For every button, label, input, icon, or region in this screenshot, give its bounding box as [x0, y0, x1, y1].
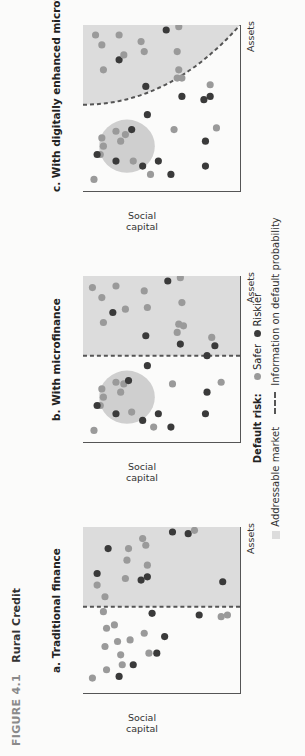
- riskier-borrower-dot: [153, 650, 160, 657]
- riskier-borrower-dot: [142, 332, 149, 339]
- safer-borrower-dot: [145, 650, 152, 657]
- safer-borrower-dot: [130, 158, 137, 165]
- safer-borrower-dot: [100, 143, 107, 150]
- dashed-line-icon: [274, 392, 276, 414]
- y-axis-label: Social capital: [119, 712, 165, 734]
- safer-borrower-dot: [94, 582, 101, 589]
- riskier-borrower-dot: [207, 93, 214, 100]
- safer-borrower-dot: [101, 593, 108, 600]
- safer-borrower-dot: [144, 304, 151, 311]
- riskier-borrower-dot: [94, 402, 101, 409]
- riskier-borrower-dot: [178, 93, 185, 100]
- riskier-borrower-dot: [219, 578, 226, 585]
- riskier-borrower-dot: [105, 545, 112, 552]
- riskier-borrower-dot: [185, 530, 192, 537]
- riskier-borrower-dot: [202, 138, 209, 145]
- figure-number: FIGURE 4.1: [10, 674, 23, 746]
- y-axis-label: Social capital: [119, 461, 165, 483]
- riskier-borrower-dot: [203, 389, 210, 396]
- riskier-borrower-dot: [138, 577, 145, 584]
- legend-safer-label: Safer: [252, 344, 263, 370]
- safer-borrower-dot: [117, 138, 124, 145]
- safer-borrower-dot: [122, 306, 129, 313]
- safer-borrower-dot: [218, 613, 225, 620]
- panel-with-microfinance: b. With microfinance Social capital Asse…: [83, 276, 241, 443]
- riskier-borrower-dot: [155, 158, 162, 165]
- figure-title: FIGURE 4.1 Rural Credit: [10, 588, 23, 746]
- legend-info-label: Information on default probability: [270, 217, 281, 385]
- safer-dot-icon: [254, 373, 261, 380]
- safer-borrower-dot: [150, 423, 157, 430]
- addressable-market-swatch-icon: [272, 531, 280, 539]
- riskier-dot-icon: [254, 330, 261, 337]
- safer-borrower-dot: [112, 128, 119, 135]
- safer-borrower-dot: [208, 334, 215, 341]
- riskier-borrower-dot: [94, 151, 101, 158]
- safer-borrower-dot: [98, 134, 105, 141]
- safer-borrower-dot: [90, 427, 97, 434]
- scatter-plot: [83, 276, 240, 442]
- safer-borrower-dot: [174, 48, 181, 55]
- safer-borrower-dot: [89, 284, 96, 291]
- riskier-borrower-dot: [142, 83, 149, 90]
- figure-name: Rural Credit: [10, 588, 23, 663]
- riskier-borrower-dot: [139, 163, 146, 170]
- riskier-borrower-dot: [112, 410, 119, 417]
- safer-borrower-dot: [138, 38, 145, 45]
- safer-borrower-dot: [114, 638, 121, 645]
- panel-title: b. With microfinance: [50, 276, 62, 443]
- safer-borrower-dot: [100, 66, 107, 73]
- safer-borrower-dot: [92, 31, 99, 38]
- riskier-borrower-dot: [211, 342, 218, 349]
- safer-borrower-dot: [98, 41, 105, 48]
- safer-borrower-dot: [112, 379, 119, 386]
- safer-borrower-dot: [139, 535, 146, 542]
- safer-borrower-dot: [117, 651, 124, 658]
- safer-borrower-dot: [100, 608, 107, 615]
- safer-borrower-dot: [90, 176, 97, 183]
- riskier-borrower-dot: [139, 417, 146, 424]
- riskier-borrower-dot: [144, 111, 151, 118]
- borrower-group-cluster: [99, 120, 155, 173]
- plot-area: [83, 276, 241, 443]
- riskier-borrower-dot: [130, 661, 137, 668]
- plot-area: [83, 25, 241, 192]
- riskier-borrower-dot: [196, 611, 203, 618]
- legend-riskier-label: Riskier: [252, 293, 263, 327]
- figure: FIGURE 4.1 Rural Credit a. Traditional f…: [0, 0, 305, 756]
- riskier-borrower-dot: [155, 410, 162, 417]
- riskier-borrower-dot: [200, 96, 207, 103]
- safer-borrower-dot: [101, 643, 108, 650]
- riskier-borrower-dot: [202, 410, 209, 417]
- safer-borrower-dot: [117, 389, 124, 396]
- safer-borrower-dot: [128, 409, 135, 416]
- y-axis-label: Social capital: [119, 210, 165, 232]
- legend-addressable-label: Addressable market: [270, 427, 281, 527]
- safer-borrower-dot: [218, 379, 225, 386]
- safer-borrower-dot: [103, 625, 110, 632]
- safer-borrower-dot: [89, 674, 96, 681]
- riskier-borrower-dot: [94, 570, 101, 577]
- safer-borrower-dot: [122, 575, 129, 582]
- safer-borrower-dot: [224, 611, 231, 618]
- riskier-borrower-dot: [163, 26, 170, 33]
- riskier-borrower-dot: [116, 673, 123, 680]
- safer-borrower-dot: [98, 385, 105, 392]
- safer-borrower-dot: [207, 81, 214, 88]
- safer-borrower-dot: [127, 636, 134, 643]
- panel-title: a. Traditional finance: [50, 527, 62, 694]
- scatter-plot: [83, 527, 240, 693]
- legend-default-risk-label: Default risk:: [252, 393, 263, 463]
- safer-borrower-dot: [170, 126, 177, 133]
- safer-borrower-dot: [116, 31, 123, 38]
- safer-borrower-dot: [122, 131, 129, 138]
- panel-traditional-finance: a. Traditional finance Social capital As…: [83, 527, 241, 694]
- safer-borrower-dot: [112, 282, 119, 289]
- safer-borrower-dot: [103, 666, 110, 673]
- safer-borrower-dot: [141, 630, 148, 637]
- riskier-borrower-dot: [167, 171, 174, 178]
- safer-borrower-dot: [125, 545, 132, 552]
- safer-borrower-dot: [178, 75, 185, 82]
- riskier-borrower-dot: [203, 352, 210, 359]
- riskier-borrower-dot: [144, 362, 151, 369]
